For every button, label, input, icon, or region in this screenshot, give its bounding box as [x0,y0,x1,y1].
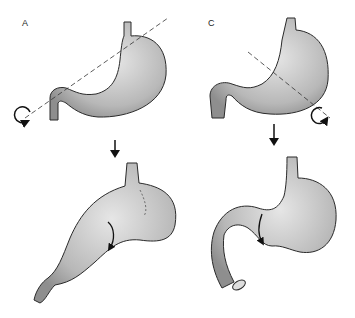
stomach-c-top [210,18,330,124]
stomach-c-bottom [211,157,336,292]
illustration [0,0,355,318]
stomach-a-bottom [34,163,176,303]
figure: A C [0,0,355,318]
stomach-a-top [15,18,168,123]
